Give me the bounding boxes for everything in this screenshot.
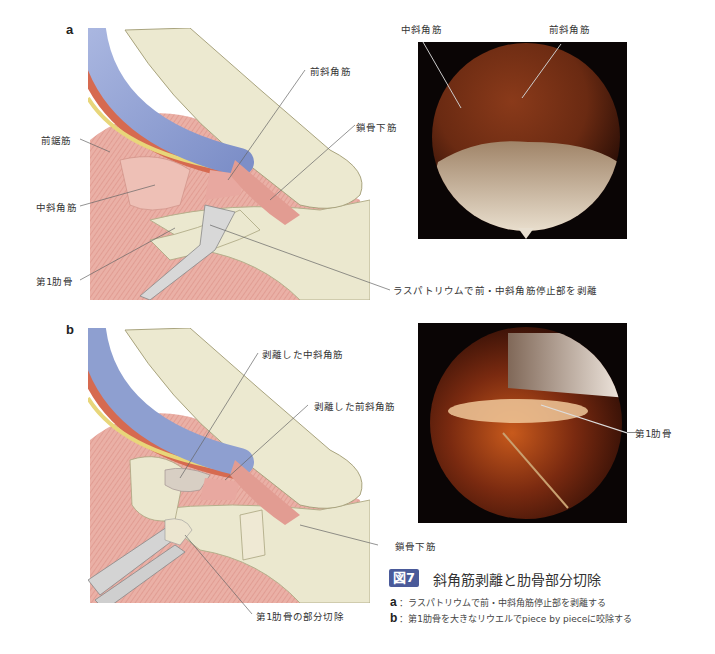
label-detached-middle-scalene: 剥離した中斜角筋 — [262, 347, 344, 361]
label-detached-anterior-scalene: 剥離した前斜角筋 — [314, 399, 396, 413]
caption-b-key: b — [390, 611, 397, 625]
caption-a-key: a — [390, 595, 397, 609]
caption-b-text: ：第1肋骨を大きなリウエルでpiece by pieceに咬除する — [399, 614, 632, 624]
caption-b: b：第1肋骨を大きなリウエルでpiece by pieceに咬除する — [390, 611, 632, 625]
label-partial-rib-resection: 第1肋骨の部分切除 — [256, 609, 344, 623]
endo-b-label-first-rib: 第1肋骨 — [635, 426, 672, 440]
caption-a-text: ：ラスパトリウムで前・中斜角筋停止部を剥離する — [399, 598, 606, 608]
figure-title: 斜角筋剥離と肋骨部分切除 — [433, 569, 601, 589]
figure-number-badge: 図7 — [389, 569, 419, 587]
panel-b-endoscopic-image — [418, 323, 627, 523]
caption-a: a：ラスパトリウムで前・中斜角筋停止部を剥離する — [390, 595, 606, 609]
label-subclavius-b: 鎖骨下筋 — [395, 539, 436, 553]
